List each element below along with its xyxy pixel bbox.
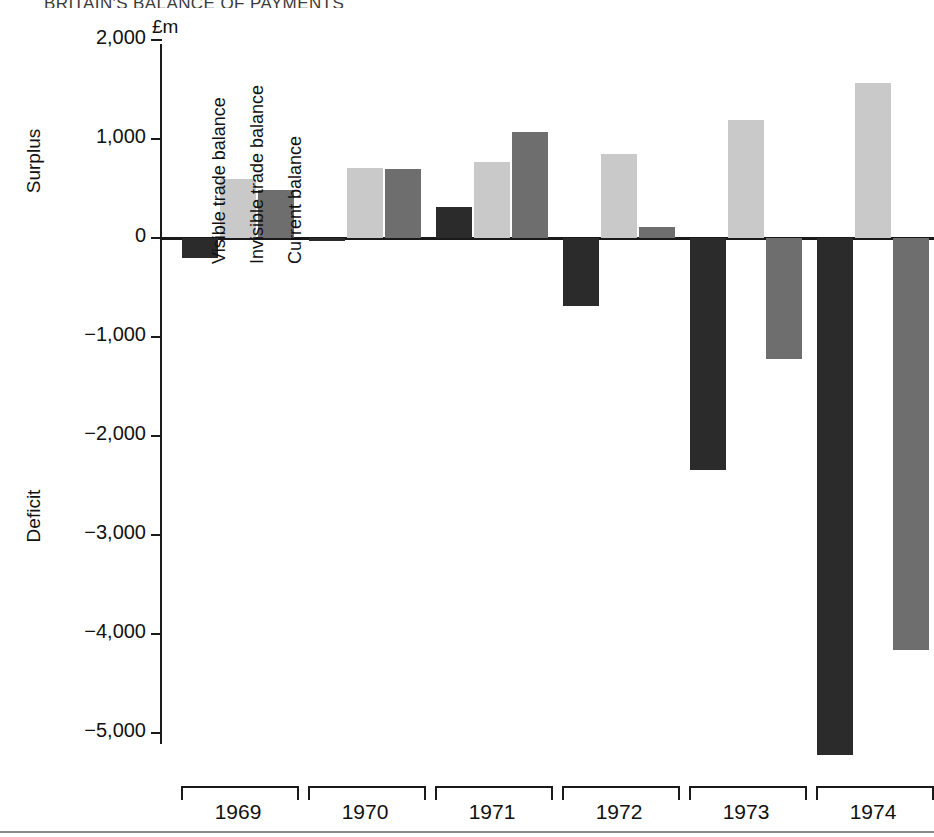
year-bracket	[816, 786, 934, 800]
y-axis-tick-mark	[151, 138, 162, 140]
x-axis-year-label: 1971	[435, 800, 549, 824]
year-bracket	[689, 786, 807, 800]
y-axis-tick-mark	[151, 732, 162, 734]
x-axis: 196919701971197219731974	[160, 0, 934, 837]
y-axis-tick-label: 1,000	[16, 126, 146, 146]
y-axis-tick-label: −1,000	[16, 324, 146, 344]
y-axis-tick-mark	[151, 237, 165, 239]
y-axis-tick-mark	[151, 435, 162, 437]
year-bracket	[308, 786, 426, 800]
y-axis-tick-mark	[151, 39, 162, 41]
year-bracket	[181, 786, 299, 800]
y-axis-tick-labels: 2,0001,0000−1,000−2,000−3,000−4,000−5,00…	[0, 0, 146, 837]
y-axis-tick-label: 2,000	[16, 27, 146, 47]
y-axis-tick-mark	[151, 534, 162, 536]
x-axis-year-label: 1974	[816, 800, 930, 824]
y-axis-tick-label: −3,000	[16, 522, 146, 542]
bottom-rule	[0, 831, 934, 833]
x-axis-year-label: 1973	[689, 800, 803, 824]
y-axis-tick-mark	[151, 336, 162, 338]
x-axis-year-label: 1970	[308, 800, 422, 824]
y-axis-tick-label: −2,000	[16, 423, 146, 443]
y-axis-tick-mark	[151, 633, 162, 635]
y-axis-tick-label: −5,000	[16, 720, 146, 740]
y-axis-tick-label: 0	[16, 225, 146, 245]
x-axis-year-label: 1972	[562, 800, 676, 824]
year-bracket	[435, 786, 553, 800]
x-axis-year-label: 1969	[181, 800, 295, 824]
y-axis-tick-label: −4,000	[16, 621, 146, 641]
chart-figure: BRITAIN'S BALANCE OF PAYMENTS Surplus De…	[0, 0, 934, 837]
year-bracket	[562, 786, 680, 800]
